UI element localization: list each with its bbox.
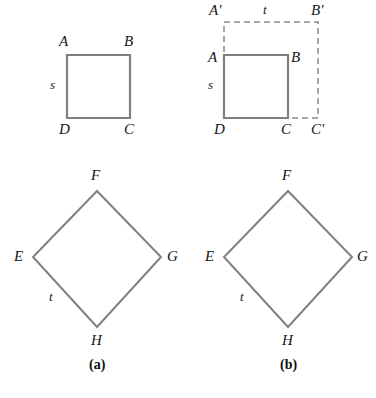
panel-a-square-abcd-outline bbox=[67, 55, 130, 118]
panel-b-vertex-label-A-prime: A′ bbox=[209, 3, 221, 18]
panel-b-vertex-label-E: E bbox=[205, 249, 214, 264]
panel-a-vertex-label-C: C bbox=[124, 122, 134, 137]
panel-a-vertex-label-G: G bbox=[167, 249, 178, 264]
panel-b-vertex-label-G: G bbox=[357, 249, 368, 264]
panel-a-caption: (a) bbox=[89, 358, 105, 372]
panel-b-vertex-label-C: C bbox=[281, 122, 291, 137]
panel-a-vertex-label-B: B bbox=[124, 34, 133, 49]
panel-b-vertex-label-H: H bbox=[282, 333, 293, 348]
panel-b-vertex-label-B: B bbox=[291, 50, 300, 65]
panel-b-rhombus-side-label-t: t bbox=[240, 290, 244, 303]
panel-a-vertex-label-H: H bbox=[91, 333, 102, 348]
panel-b-vertex-label-B-prime: B′ bbox=[311, 3, 323, 18]
panel-b-vertex-label-C-prime: C′ bbox=[311, 122, 324, 137]
panel-b-vertex-label-A: A bbox=[208, 50, 217, 65]
panel-b-vertex-label-F: F bbox=[282, 168, 291, 183]
panel-b-dashed-rectangle-outline bbox=[224, 22, 318, 118]
panel-b-rhombus-efgh-outline bbox=[224, 191, 352, 327]
panel-a-square-side-label-s: s bbox=[50, 78, 55, 91]
panel-a-rhombus-side-label-t: t bbox=[49, 290, 53, 303]
panel-b-caption: (b) bbox=[280, 358, 297, 372]
figure-canvas bbox=[0, 0, 376, 398]
geometry-figure: A B C D s F G H E t A′ B′ C′ t A B C D s… bbox=[0, 0, 376, 398]
panel-a-rhombus-efgh-outline bbox=[33, 191, 161, 327]
panel-a-vertex-label-E: E bbox=[14, 249, 23, 264]
panel-a-vertex-label-A: A bbox=[59, 34, 68, 49]
panel-b-vertex-label-D: D bbox=[214, 122, 225, 137]
panel-b-square-abcd-outline bbox=[224, 55, 288, 118]
panel-a-vertex-label-D: D bbox=[59, 122, 70, 137]
panel-b-square-side-label-s: s bbox=[208, 78, 213, 91]
panel-b-dashed-rect-side-label-t: t bbox=[263, 3, 267, 16]
panel-a-vertex-label-F: F bbox=[91, 168, 100, 183]
